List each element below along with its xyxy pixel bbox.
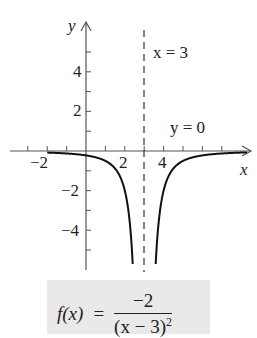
y-tick-label-2: 2 bbox=[73, 101, 82, 120]
formula-box: f(x) = −2 (x − 3)2 bbox=[47, 280, 210, 334]
y-tick-label-neg2: −2 bbox=[61, 181, 79, 200]
denominator-base: (x − 3) bbox=[114, 316, 166, 337]
y-tick-label-neg4: −4 bbox=[61, 221, 80, 240]
x-ticks bbox=[28, 146, 222, 151]
x-tick-label-2: 2 bbox=[119, 153, 128, 172]
formula-denominator: (x − 3)2 bbox=[114, 314, 172, 338]
formula: f(x) = −2 (x − 3)2 bbox=[57, 290, 172, 338]
formula-equals: = bbox=[93, 303, 104, 325]
formula-numerator: −2 bbox=[129, 290, 157, 313]
y-tick-label-4: 4 bbox=[73, 62, 82, 81]
denominator-exponent: 2 bbox=[166, 315, 172, 329]
vertical-asymptote-label: x = 3 bbox=[153, 43, 188, 62]
formula-fraction: −2 (x − 3)2 bbox=[114, 290, 172, 338]
formula-lhs: f(x) bbox=[57, 303, 83, 325]
y-axis-label: y bbox=[66, 16, 76, 35]
x-axis-label: x bbox=[239, 160, 248, 179]
x-tick-label-4: 4 bbox=[158, 153, 167, 172]
horizontal-asymptote-label: y = 0 bbox=[170, 118, 205, 137]
x-tick-label-neg2: −2 bbox=[30, 153, 48, 172]
curve-right-branch bbox=[156, 152, 247, 264]
